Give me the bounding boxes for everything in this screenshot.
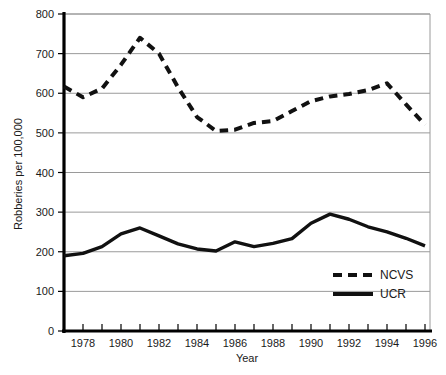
robbery-rate-line-chart: 0100200300400500600700800 19781980198219… [0, 0, 446, 375]
x-tick-label-1982: 1982 [147, 337, 171, 349]
chart-background [0, 0, 446, 375]
x-tick-label-1978: 1978 [71, 337, 95, 349]
x-axis-title: Year [236, 352, 259, 364]
x-tick-label-1992: 1992 [337, 337, 361, 349]
x-tick-label-1996: 1996 [413, 337, 437, 349]
y-tick-label-700: 700 [36, 48, 54, 60]
x-tick-label-1986: 1986 [223, 337, 247, 349]
y-tick-label-500: 500 [36, 127, 54, 139]
y-tick-label-200: 200 [36, 246, 54, 258]
y-tick-label-600: 600 [36, 87, 54, 99]
chart-container: 0100200300400500600700800 19781980198219… [0, 0, 446, 375]
y-tick-label-400: 400 [36, 167, 54, 179]
y-tick-label-300: 300 [36, 206, 54, 218]
x-tick-label-1990: 1990 [299, 337, 323, 349]
y-tick-label-800: 800 [36, 8, 54, 20]
y-axis-title: Robberies per 100,000 [12, 118, 24, 230]
legend-label-ucr: UCR [380, 287, 406, 301]
x-tick-label-1984: 1984 [185, 337, 209, 349]
x-tick-label-1980: 1980 [109, 337, 133, 349]
legend-label-ncvs: NCVS [380, 268, 413, 282]
y-tick-label-100: 100 [36, 285, 54, 297]
y-tick-label-0: 0 [48, 325, 54, 337]
x-tick-label-1994: 1994 [375, 337, 399, 349]
x-tick-label-1988: 1988 [261, 337, 285, 349]
